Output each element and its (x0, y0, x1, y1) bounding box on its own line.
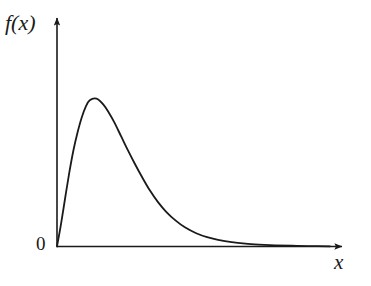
x-axis-label: x (334, 252, 343, 273)
chart-figure: f(x) x 0 (0, 0, 371, 286)
y-axis-label: f(x) (5, 12, 36, 34)
plot-canvas (0, 0, 371, 286)
density-curve (57, 98, 330, 246)
origin-label: 0 (36, 234, 46, 253)
